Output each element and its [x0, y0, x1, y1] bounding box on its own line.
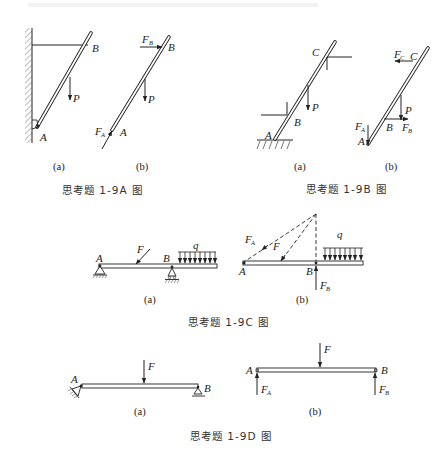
label-fa-sub: A — [266, 389, 271, 396]
rod-ac — [368, 48, 428, 144]
label-f: F — [323, 343, 331, 355]
label-f: F — [136, 243, 144, 255]
corner-support-b — [261, 102, 287, 115]
label-q: q — [193, 239, 199, 251]
label-q: q — [337, 228, 343, 240]
label-a: A — [119, 126, 127, 138]
inclined-pin-support-a — [68, 385, 82, 398]
figure-title-1-9C: 思考题 1-9C 图 — [188, 316, 269, 328]
label-a: A — [95, 252, 103, 264]
rod-ab — [37, 33, 91, 127]
label-b: B — [306, 265, 313, 277]
rod-ab — [112, 37, 169, 130]
label-f: F — [272, 240, 280, 252]
caption-1-9A-a: (a) — [53, 161, 65, 173]
label-a: A — [264, 129, 272, 141]
figure-1-9A-b: F B B P F A A — [94, 33, 175, 149]
force-f-arrowhead — [281, 255, 285, 261]
label-b: B — [381, 364, 388, 376]
distributed-load-q — [178, 252, 216, 263]
figure-1-9C-b: F A F q A B F B — [238, 214, 363, 292]
label-a: A — [245, 364, 253, 376]
force-triangle — [244, 214, 316, 262]
diagram-canvas: B A P F B B P F A A (a) (b) 思考题 1-9A 图 — [0, 0, 448, 452]
label-fb-sub: B — [385, 389, 389, 396]
beam — [82, 384, 198, 388]
faded-header-residue — [28, 3, 318, 7]
point-b — [315, 262, 318, 265]
label-c: C — [312, 46, 320, 58]
figure-1-9C-a: A B F q — [93, 239, 217, 283]
ground — [257, 140, 293, 149]
rod-ac — [275, 42, 335, 139]
figure-1-9A-a: B A P — [25, 28, 99, 143]
label-fa-sub: A — [360, 126, 365, 133]
force-fa-arrowhead — [262, 245, 268, 250]
caption-1-9B-b: (b) — [385, 161, 398, 173]
label-a: A — [70, 373, 78, 385]
label-p: P — [147, 93, 155, 105]
label-b: B — [386, 121, 393, 133]
figure-title-1-9A: 思考题 1-9A 图 — [62, 184, 143, 196]
wall — [25, 28, 32, 143]
caption-1-9C-a: (a) — [144, 294, 156, 306]
label-fb: F — [141, 33, 149, 45]
label-p: P — [311, 101, 319, 113]
label-fb-sub: B — [149, 39, 153, 46]
caption-1-9A-b: (b) — [136, 161, 149, 173]
label-p: P — [72, 92, 80, 104]
label-p: P — [404, 104, 412, 116]
figure-1-9B-a: C P B A — [257, 42, 352, 149]
beam — [99, 264, 217, 268]
figure-1-9D-a: F A B — [68, 360, 211, 398]
label-a: A — [357, 135, 365, 147]
label-b: B — [168, 41, 175, 53]
figure-1-9D-b: F A B F A F B — [245, 343, 389, 396]
distributed-load-q — [323, 248, 363, 260]
label-fc-sub: C — [400, 54, 405, 61]
label-b: B — [204, 382, 211, 394]
label-fa-sub: A — [100, 131, 105, 138]
corner-support-c — [327, 57, 352, 70]
caption-1-9C-b: (b) — [296, 294, 309, 306]
beam — [257, 368, 376, 372]
label-fa-sub: A — [250, 239, 255, 246]
caption-1-9B-a: (a) — [294, 161, 306, 173]
label-c: C — [410, 50, 418, 62]
beam — [243, 261, 363, 265]
label-b: B — [294, 116, 301, 128]
label-a: A — [39, 131, 47, 143]
label-b: B — [92, 42, 99, 54]
label-b: B — [163, 252, 170, 264]
figure-title-1-9D: 思考题 1-9D 图 — [190, 430, 272, 442]
label-a: A — [238, 265, 246, 277]
caption-1-9D-a: (a) — [134, 406, 146, 418]
figure-title-1-9B: 思考题 1-9B 图 — [306, 183, 387, 195]
figure-1-9B-b: F C C P B F B F A A — [354, 48, 428, 147]
label-fb-sub: B — [408, 127, 412, 134]
label-fb-sub: B — [326, 285, 330, 292]
label-f: F — [147, 360, 155, 372]
caption-1-9D-b: (b) — [309, 406, 322, 418]
